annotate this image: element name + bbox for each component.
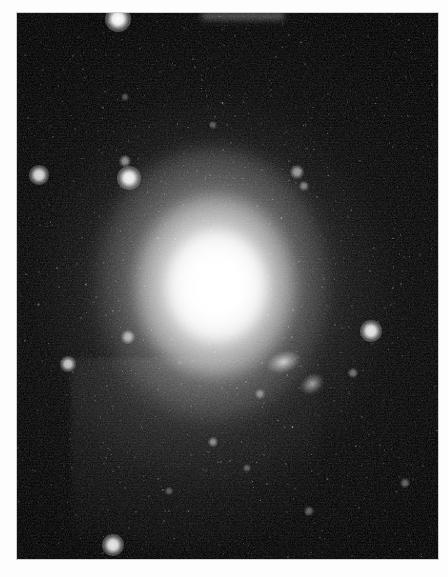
faint-speck: [399, 253, 400, 254]
faint-speck: [320, 356, 321, 357]
faint-speck: [305, 124, 307, 126]
faint-speck: [37, 303, 39, 305]
faint-speck: [359, 160, 361, 162]
faint-speck: [294, 234, 296, 236]
faint-speck: [205, 276, 206, 277]
faint-speck: [357, 517, 358, 518]
faint-speck: [60, 299, 61, 300]
faint-speck: [74, 54, 75, 55]
faint-speck: [434, 98, 435, 99]
faint-speck: [144, 285, 146, 287]
faint-speck: [113, 131, 114, 132]
faint-speck: [187, 29, 188, 30]
faint-speck: [429, 50, 431, 52]
faint-speck: [381, 29, 383, 31]
faint-speck: [84, 77, 86, 79]
faint-speck: [194, 66, 195, 67]
faint-speck: [286, 511, 287, 512]
faint-speck: [372, 359, 373, 360]
faint-speck: [29, 503, 31, 505]
faint-speck: [335, 453, 337, 455]
faint-speck: [285, 472, 287, 474]
faint-speck: [260, 500, 261, 501]
faint-speck: [162, 489, 163, 490]
faint-speck: [65, 148, 67, 150]
faint-speck: [38, 271, 40, 273]
faint-speck: [219, 16, 220, 17]
plate-edge-streak: [202, 13, 284, 22]
faint-speck: [151, 205, 152, 206]
faint-speck: [50, 484, 52, 486]
faint-speck: [267, 276, 269, 278]
faint-speck: [329, 520, 330, 521]
faint-speck: [190, 285, 192, 287]
faint-speck: [394, 228, 395, 229]
faint-speck: [84, 437, 85, 438]
faint-speck: [402, 355, 404, 357]
faint-speck: [38, 435, 40, 437]
faint-speck: [256, 205, 257, 206]
faint-speck: [214, 351, 216, 353]
faint-speck: [343, 257, 345, 259]
faint-speck: [248, 545, 249, 546]
faint-speck: [112, 36, 113, 37]
faint-speck: [111, 454, 112, 455]
faint-speck: [270, 95, 272, 97]
faint-speck: [112, 310, 113, 311]
faint-speck: [261, 169, 263, 171]
faint-speck: [173, 396, 174, 397]
faint-speck: [272, 489, 273, 490]
faint-speck: [187, 510, 189, 512]
faint-speck: [303, 125, 304, 126]
faint-speck: [427, 146, 428, 147]
faint-speck: [172, 241, 174, 243]
faint-speck: [248, 552, 249, 553]
faint-speck: [110, 488, 112, 490]
faint-speck: [307, 37, 308, 38]
faint-speck: [343, 55, 344, 56]
faint-speck: [63, 465, 65, 467]
faint-speck: [267, 314, 269, 316]
faint-speck: [63, 69, 64, 70]
faint-speck: [56, 198, 58, 200]
faint-speck: [323, 95, 325, 97]
faint-speck: [248, 443, 249, 444]
faint-speck: [353, 250, 354, 251]
faint-speck: [22, 97, 23, 98]
faint-speck: [434, 386, 435, 387]
faint-speck: [52, 209, 54, 211]
faint-speck: [28, 128, 29, 129]
faint-speck: [19, 463, 21, 465]
faint-speck: [135, 511, 137, 513]
faint-speck: [327, 133, 329, 135]
faint-speck: [17, 447, 19, 449]
faint-speck: [52, 441, 53, 442]
faint-speck: [401, 250, 402, 251]
faint-speck: [163, 520, 165, 522]
faint-speck: [232, 263, 234, 265]
faint-speck: [209, 256, 210, 257]
faint-speck: [117, 99, 118, 100]
faint-speck: [164, 193, 165, 194]
faint-speck: [361, 416, 363, 418]
faint-speck: [331, 369, 332, 370]
faint-speck: [187, 434, 188, 435]
faint-speck: [412, 328, 414, 330]
faint-speck: [72, 180, 74, 182]
faint-speck: [350, 382, 351, 383]
faint-speck: [306, 148, 307, 149]
star-right-bright: [360, 320, 382, 342]
faint-speck: [201, 91, 202, 92]
faint-speck: [383, 178, 385, 180]
faint-speck: [44, 410, 45, 411]
faint-speck: [199, 385, 201, 387]
faint-speck: [388, 349, 389, 350]
faint-speck: [337, 66, 338, 67]
faint-speck: [43, 143, 45, 145]
faint-speck: [172, 63, 173, 64]
faint-speck: [407, 494, 409, 496]
faint-speck: [205, 470, 207, 472]
faint-speck: [316, 269, 317, 270]
faint-speck: [411, 277, 412, 278]
faint-speck: [192, 58, 194, 60]
